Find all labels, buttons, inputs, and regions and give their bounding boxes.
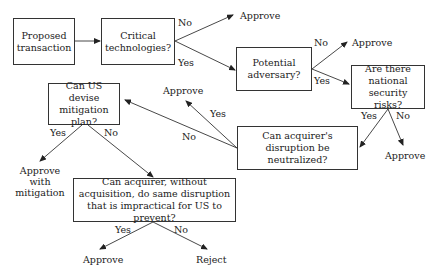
node-mitigation-plan: Can US devise mitigation plan? <box>48 83 120 125</box>
node-text: Potential adversary? <box>240 57 308 81</box>
node-national-security-risks: Are there national security risks? <box>351 65 425 109</box>
outcome-approve: Approve <box>352 37 392 48</box>
edge-label-no: No <box>314 37 328 48</box>
node-proposed-transaction: Proposed transaction <box>13 18 75 65</box>
edge-label-yes: Yes <box>314 75 330 86</box>
edge-label-no: No <box>104 127 118 138</box>
edge-label-yes: Yes <box>50 127 66 138</box>
flowchart-canvas: Proposed transaction Critical technologi… <box>0 0 435 276</box>
edge-label-yes: Yes <box>115 224 131 235</box>
edge-label-no: No <box>174 224 188 235</box>
edge-label-no: No <box>182 131 196 142</box>
node-disruption-neutralized: Can acquirer's disruption be neutralized… <box>237 126 358 170</box>
node-text: Can acquirer's disruption be neutralized… <box>241 130 354 166</box>
node-text: Can US devise mitigation plan? <box>52 80 116 128</box>
outcome-reject: Reject <box>196 254 226 265</box>
node-acquisition-disruption: Can acquirer, without acquisition, do sa… <box>73 178 236 222</box>
edge-label-yes: Yes <box>361 110 377 121</box>
node-text: Are there national security risks? <box>355 63 421 111</box>
outcome-approve-with-mitigation: Approve with mitigation <box>12 165 68 198</box>
edge-label-yes: Yes <box>178 57 194 68</box>
node-text: Critical technologies? <box>105 30 171 54</box>
outcome-approve: Approve <box>163 85 203 96</box>
outcome-approve: Approve <box>385 150 425 161</box>
outcome-approve: Approve <box>240 10 280 21</box>
node-text: Proposed transaction <box>17 30 72 54</box>
outcome-approve: Approve <box>83 254 123 265</box>
edge-label-yes: Yes <box>210 108 226 119</box>
node-critical-technologies: Critical technologies? <box>101 18 175 65</box>
node-text: Can acquirer, without acquisition, do sa… <box>77 176 232 224</box>
edge-label-no: No <box>396 110 410 121</box>
edge-label-no: No <box>178 17 192 28</box>
node-potential-adversary: Potential adversary? <box>236 47 312 91</box>
